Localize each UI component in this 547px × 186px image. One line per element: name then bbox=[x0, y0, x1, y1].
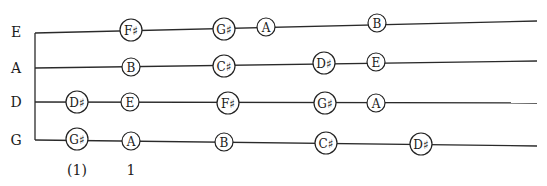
note-label: D♯ bbox=[69, 96, 84, 110]
note-marker: F♯ bbox=[120, 19, 142, 41]
note-label: B bbox=[127, 61, 136, 75]
note-marker: A bbox=[367, 94, 385, 112]
note-marker: B bbox=[215, 133, 233, 151]
note-label: G♯ bbox=[69, 133, 84, 147]
strings-layer: EADG bbox=[10, 21, 537, 148]
note-marker: D♯ bbox=[410, 133, 432, 155]
note-marker: B bbox=[122, 58, 140, 76]
note-label: B bbox=[220, 136, 229, 150]
note-label: A bbox=[261, 21, 271, 35]
note-marker: G♯ bbox=[66, 128, 88, 150]
note-marker: E bbox=[367, 53, 385, 71]
note-marker: D♯ bbox=[66, 91, 88, 113]
note-label: C♯ bbox=[319, 137, 334, 151]
note-label: G♯ bbox=[216, 23, 231, 37]
note-marker: D♯ bbox=[313, 52, 335, 74]
note-label: F♯ bbox=[221, 97, 235, 111]
note-label: D♯ bbox=[413, 138, 428, 152]
note-marker: G♯ bbox=[213, 18, 235, 40]
note-marker: E bbox=[121, 93, 139, 111]
note-marker: A bbox=[122, 132, 140, 150]
note-label: E bbox=[372, 56, 381, 70]
note-marker: A bbox=[257, 18, 275, 36]
note-marker: F♯ bbox=[217, 92, 239, 114]
note-label: A bbox=[126, 135, 136, 149]
string-label-d: D bbox=[10, 94, 21, 110]
finger-labels-layer: (1)1 bbox=[67, 162, 135, 178]
note-label: E bbox=[126, 96, 135, 110]
string-line-g bbox=[35, 140, 537, 146]
string-line-d bbox=[35, 102, 537, 103]
note-label: B bbox=[373, 17, 382, 31]
string-label-g: G bbox=[10, 132, 21, 148]
note-marker: G♯ bbox=[314, 92, 336, 114]
note-label: G♯ bbox=[317, 97, 332, 111]
note-marker: C♯ bbox=[213, 55, 235, 77]
note-marker: C♯ bbox=[315, 132, 337, 154]
finger-number-label: (1) bbox=[67, 162, 87, 178]
string-line-a bbox=[35, 61, 537, 68]
note-marker: B bbox=[368, 14, 386, 32]
string-line-e bbox=[35, 21, 537, 33]
fingerboard-diagram: EADG F♯G♯ABBC♯D♯ED♯EF♯G♯AG♯ABC♯D♯ (1)1 bbox=[0, 0, 547, 186]
note-label: C♯ bbox=[217, 60, 232, 74]
note-label: D♯ bbox=[316, 57, 331, 71]
string-label-e: E bbox=[11, 24, 21, 40]
notes-layer: F♯G♯ABBC♯D♯ED♯EF♯G♯AG♯ABC♯D♯ bbox=[66, 14, 432, 155]
finger-number-label: 1 bbox=[127, 162, 136, 178]
string-label-a: A bbox=[10, 60, 22, 76]
note-label: F♯ bbox=[124, 24, 138, 38]
note-label: A bbox=[371, 97, 381, 111]
